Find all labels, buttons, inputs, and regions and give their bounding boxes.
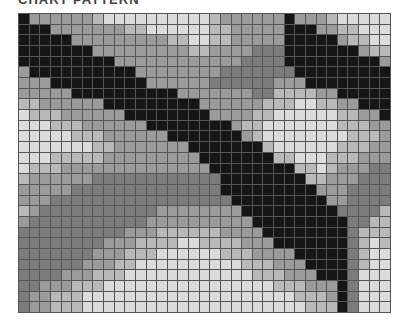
grid-cell [327, 67, 337, 77]
grid-cell [104, 35, 114, 45]
grid-cell [93, 270, 103, 280]
grid-cell [200, 260, 210, 270]
grid-cell [104, 292, 114, 302]
grid-cell [210, 302, 220, 312]
grid-cell [178, 164, 188, 174]
grid-cell [83, 228, 93, 238]
grid-cell [104, 110, 114, 120]
grid-cell [221, 281, 231, 291]
grid-cell [30, 78, 40, 88]
grid-cell [317, 249, 327, 259]
grid-cell [72, 292, 82, 302]
grid-cell [317, 302, 327, 312]
grid-cell [40, 302, 50, 312]
grid-cell [189, 46, 199, 56]
grid-cell [306, 14, 316, 24]
grid-cell [263, 281, 273, 291]
grid-cell [263, 302, 273, 312]
grid-cell [93, 57, 103, 67]
grid-cell [253, 25, 263, 35]
grid-cell [157, 35, 167, 45]
grid-cell [62, 131, 72, 141]
grid-cell [72, 238, 82, 248]
grid-cell [348, 99, 358, 109]
grid-cell [189, 99, 199, 109]
grid-cell [306, 270, 316, 280]
grid-cell [306, 228, 316, 238]
grid-cell [125, 121, 135, 131]
grid-cell [295, 185, 305, 195]
grid-cell [348, 174, 358, 184]
grid-cell [274, 270, 284, 280]
grid-cell [136, 142, 146, 152]
grid-cell [285, 196, 295, 206]
grid-cell [338, 270, 348, 280]
grid-cell [62, 99, 72, 109]
grid-cell [317, 153, 327, 163]
grid-cell [274, 121, 284, 131]
grid-cell [104, 67, 114, 77]
grid-cell [359, 121, 369, 131]
grid-cell [189, 164, 199, 174]
grid-cell [348, 302, 358, 312]
grid-cell [62, 110, 72, 120]
grid-cell [210, 217, 220, 227]
grid-cell [232, 281, 242, 291]
grid-cell [263, 99, 273, 109]
grid-cell [232, 302, 242, 312]
grid-cell [19, 281, 29, 291]
grid-cell [30, 217, 40, 227]
grid-cell [83, 131, 93, 141]
grid-cell [40, 110, 50, 120]
grid-cell [157, 174, 167, 184]
grid-cell [168, 46, 178, 56]
grid-cell [232, 25, 242, 35]
grid-cell [285, 78, 295, 88]
grid-cell [232, 46, 242, 56]
grid-cell [359, 206, 369, 216]
grid-cell [359, 164, 369, 174]
grid-cell [327, 142, 337, 152]
grid-cell [232, 142, 242, 152]
grid-cell [147, 14, 157, 24]
grid-cell [306, 217, 316, 227]
grid-cell [83, 153, 93, 163]
grid-cell [263, 25, 273, 35]
grid-cell [242, 292, 252, 302]
grid-cell [125, 292, 135, 302]
grid-cell [51, 206, 61, 216]
grid-cell [157, 238, 167, 248]
grid-cell [147, 78, 157, 88]
grid-cell [30, 153, 40, 163]
grid-cell [19, 25, 29, 35]
grid-cell [338, 260, 348, 270]
grid-cell [295, 292, 305, 302]
grid-cell [40, 25, 50, 35]
grid-cell [168, 292, 178, 302]
grid-cell [274, 131, 284, 141]
grid-cell [263, 35, 273, 45]
grid-cell [40, 164, 50, 174]
grid-cell [338, 131, 348, 141]
grid-cell [274, 281, 284, 291]
grid-cell [157, 110, 167, 120]
grid-cell [274, 174, 284, 184]
grid-cell [221, 164, 231, 174]
grid-cell [125, 196, 135, 206]
grid-cell [115, 89, 125, 99]
grid-cell [83, 78, 93, 88]
grid-cell [93, 142, 103, 152]
grid-cell [253, 121, 263, 131]
grid-cell [338, 57, 348, 67]
grid-cell [285, 164, 295, 174]
grid-cell [72, 302, 82, 312]
grid-cell [19, 35, 29, 45]
grid-cell [19, 185, 29, 195]
grid-cell [51, 99, 61, 109]
grid-cell [157, 142, 167, 152]
grid-cell [317, 142, 327, 152]
grid-cell [348, 89, 358, 99]
grid-cell [348, 142, 358, 152]
grid-cell [115, 142, 125, 152]
grid-cell [253, 89, 263, 99]
